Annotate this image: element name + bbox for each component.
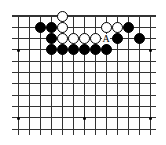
white-stone[interactable]	[57, 22, 68, 33]
black-stone[interactable]	[46, 33, 57, 44]
white-stone[interactable]	[101, 22, 112, 33]
grid-line-vertical	[40, 16, 41, 135]
white-stone[interactable]	[57, 33, 68, 44]
black-stone[interactable]	[134, 33, 145, 44]
black-stone[interactable]	[57, 44, 68, 55]
black-stone[interactable]	[123, 22, 134, 33]
star-point	[17, 49, 20, 52]
white-stone[interactable]	[68, 33, 79, 44]
point-label: A	[102, 34, 110, 44]
star-point	[149, 117, 152, 120]
black-stone[interactable]	[101, 44, 112, 55]
black-stone[interactable]	[79, 44, 90, 55]
grid-line-vertical	[128, 16, 129, 135]
black-stone[interactable]	[46, 22, 57, 33]
white-stone[interactable]	[57, 11, 68, 22]
star-point	[17, 117, 20, 120]
star-point	[149, 49, 152, 52]
black-stone[interactable]	[112, 33, 123, 44]
star-point	[83, 117, 86, 120]
black-stone[interactable]	[35, 22, 46, 33]
black-stone[interactable]	[90, 44, 101, 55]
white-stone[interactable]	[112, 22, 123, 33]
black-stone[interactable]	[46, 44, 57, 55]
grid-line-vertical	[29, 16, 30, 135]
black-stone[interactable]	[68, 44, 79, 55]
go-board[interactable]: A	[0, 0, 166, 145]
white-stone[interactable]	[90, 33, 101, 44]
white-stone[interactable]	[79, 33, 90, 44]
